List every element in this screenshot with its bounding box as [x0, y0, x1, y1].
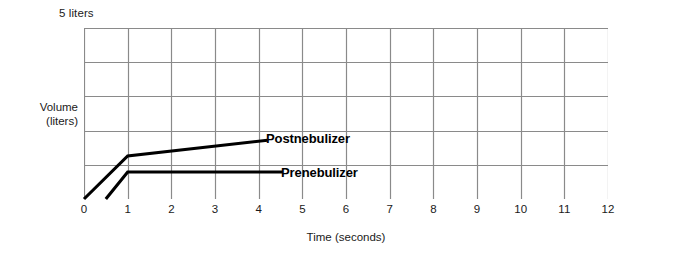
x-tick-label: 3 — [203, 203, 227, 215]
x-tick-label: 0 — [72, 203, 96, 215]
series-label-postnebulizer: Postnebulizer — [266, 131, 350, 146]
series-line-prenebulizer — [106, 172, 283, 199]
y-axis-title-line-2: (liters) — [0, 114, 78, 128]
y-axis-title-line-1: Volume — [0, 100, 78, 114]
x-tick-label: 7 — [378, 203, 402, 215]
x-tick-label: 2 — [159, 203, 183, 215]
x-tick-label: 5 — [290, 203, 314, 215]
spirometry-chart-figure: 5 liters Volume (liters) 012345678910111… — [0, 0, 688, 266]
x-tick-label: 10 — [509, 203, 533, 215]
x-axis-title: Time (seconds) — [84, 231, 608, 243]
x-tick-label: 4 — [247, 203, 271, 215]
x-axis-tick-labels: 0123456789101112 — [84, 203, 608, 219]
series-label-prenebulizer: Prenebulizer — [281, 165, 358, 180]
x-tick-label: 6 — [334, 203, 358, 215]
x-tick-label: 11 — [552, 203, 576, 215]
x-tick-label: 1 — [116, 203, 140, 215]
x-tick-label: 9 — [465, 203, 489, 215]
y-axis-title: Volume (liters) — [0, 100, 78, 128]
x-tick-label: 8 — [421, 203, 445, 215]
x-tick-label: 12 — [596, 203, 620, 215]
y-axis-max-caption: 5 liters — [59, 7, 94, 19]
